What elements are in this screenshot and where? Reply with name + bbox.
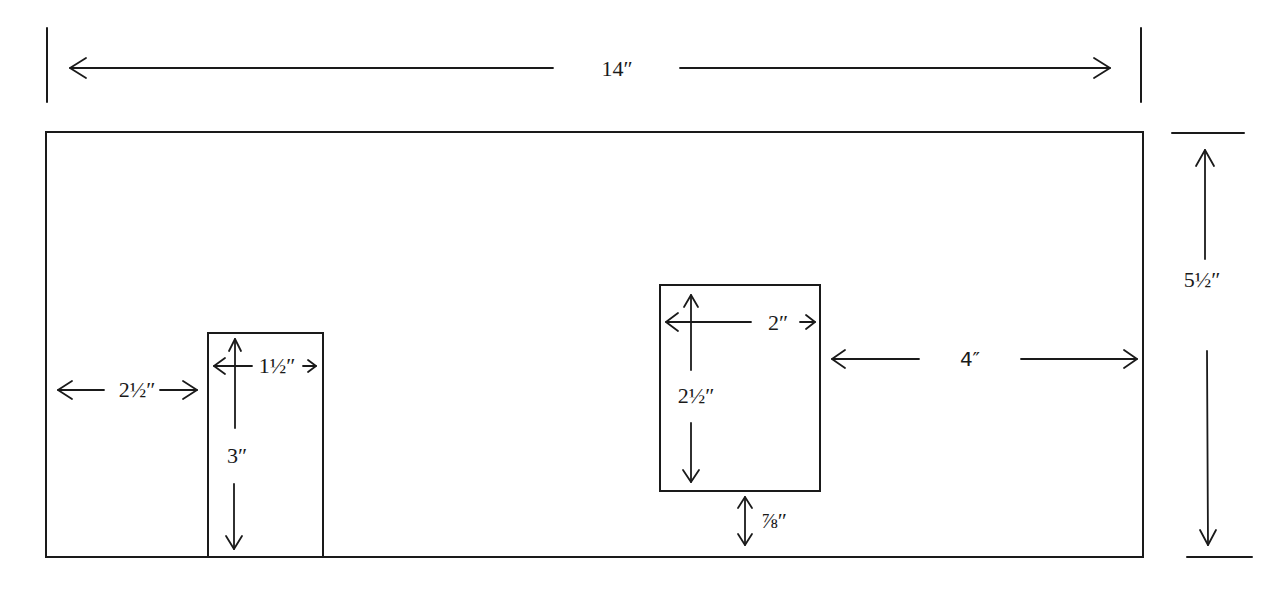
left-opening-width-label: 1½″ — [259, 353, 296, 378]
right-opening-width-label: 2″ — [768, 310, 788, 335]
panel-outline — [46, 132, 1143, 557]
right-opening: 2″ 2½″ ⅞″ 4″ — [660, 285, 1137, 545]
overall-width-label: 14″ — [601, 56, 632, 81]
right-opening-right-offset-label: 4″ — [960, 347, 980, 371]
overall-height-label: 5½″ — [1184, 267, 1221, 292]
panel-diagram: 14″ 5½″ 2½″ 1½″ 3″ — [0, 0, 1281, 591]
overall-width-dimension: 14″ — [47, 28, 1141, 102]
right-opening-height-label: 2½″ — [678, 383, 715, 408]
overall-height-dimension: 5½″ — [1172, 133, 1252, 557]
left-opening: 2½″ 1½″ 3″ — [58, 333, 323, 557]
right-opening-bottom-offset-label: ⅞″ — [761, 508, 787, 533]
dimension-line-bottom — [1207, 351, 1208, 545]
left-opening-offset-label: 2½″ — [119, 377, 156, 402]
left-opening-height-label: 3″ — [227, 443, 247, 468]
